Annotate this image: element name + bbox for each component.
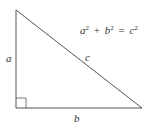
equation-b-exponent: 2 (110, 24, 114, 32)
equation-plus: + (92, 24, 102, 36)
equation-c-exponent: 2 (134, 24, 138, 32)
equation-a-exponent: 2 (86, 24, 90, 32)
triangle-figure (0, 0, 154, 129)
label-a: a (6, 53, 12, 64)
pythagorean-equation: a2 + b2 = c2 (80, 25, 138, 36)
equation-equals: = (116, 24, 126, 36)
right-angle-marker (16, 98, 26, 108)
label-c: c (85, 52, 90, 63)
pythagorean-diagram: a b c a2 + b2 = c2 (0, 0, 154, 129)
label-b: b (74, 113, 80, 124)
